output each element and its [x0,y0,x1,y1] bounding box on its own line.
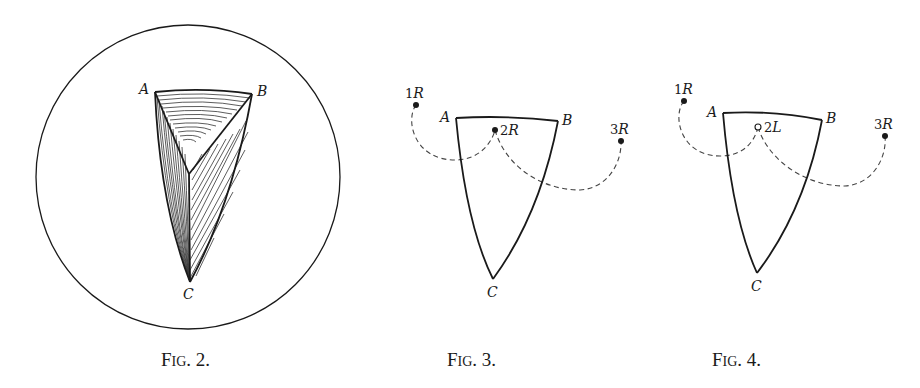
bounding-circle [36,25,340,329]
point-1r [681,98,687,104]
vertex-label-c: C [487,284,498,300]
point-label-1r: 1R [405,85,424,101]
point-3r [882,133,888,139]
point-2r [492,127,498,133]
vertex-label-a: A [705,104,717,120]
vertex-label-b: B [825,110,836,126]
dashed-path-2l-3r [758,127,885,186]
vertex-label-a: A [438,109,450,125]
point-label-2r: 2R [500,122,519,138]
point-label-1r: 1R [674,81,693,97]
vertex-label-b: B [256,83,267,99]
figure-3: 1R 2R 3R A B C FIG. 3. [405,85,629,370]
point-label-2l: 2L [764,119,782,135]
figure-2: A B C FIG. 2. [36,25,340,370]
vertex-label-b: B [561,112,572,128]
dashed-path-2r-3r [495,130,621,190]
dashed-path-1r-2l [679,101,758,156]
triangle-outline [456,117,558,279]
point-label-3r: 3R [610,121,629,137]
dashed-path-1r-2r [412,105,495,160]
caption-fig-4: FIG. 4. [712,349,761,370]
figure-canvas: A B C FIG. 2. 1R 2R 3R A B C FIG. 3. [0,0,920,388]
figure-4: 1R 2L 3R A B C FIG. 4. [674,81,893,370]
caption-fig-2: FIG. 2. [161,349,210,370]
right-face-hatching [190,121,248,278]
point-label-3r: 3R [874,116,893,132]
caption-fig-3: FIG. 3. [447,349,496,370]
point-3r [618,138,624,144]
triangle-outline [723,112,822,273]
vertex-label-c: C [183,286,194,302]
point-1r [413,102,419,108]
vertex-label-c: C [751,278,762,294]
vertex-label-a: A [137,81,149,97]
point-2l-open [755,124,761,130]
